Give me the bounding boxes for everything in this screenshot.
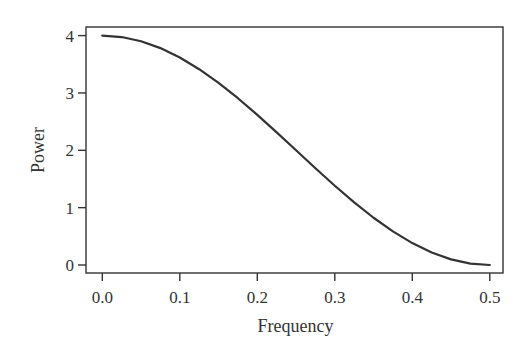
spectrum-line — [102, 36, 490, 265]
x-axis: 0.00.10.20.30.40.5 — [92, 273, 501, 307]
x-tick-label: 0.4 — [402, 288, 424, 307]
y-tick-label: 0 — [66, 256, 75, 275]
x-tick-label: 0.0 — [92, 288, 113, 307]
y-tick-label: 4 — [66, 27, 75, 46]
x-tick-label: 0.1 — [169, 288, 190, 307]
y-tick-label: 2 — [66, 141, 75, 160]
x-axis-label: Frequency — [258, 316, 334, 336]
y-axis-label: Power — [28, 127, 48, 173]
y-tick-label: 1 — [66, 199, 75, 218]
y-axis: 01234 — [66, 27, 87, 275]
spectrum-chart: 01234 0.00.10.20.30.40.5 Frequency Power — [0, 0, 531, 358]
y-tick-label: 3 — [66, 84, 75, 103]
plot-area — [102, 36, 490, 265]
x-tick-label: 0.5 — [479, 288, 500, 307]
x-tick-label: 0.3 — [324, 288, 345, 307]
x-tick-label: 0.2 — [247, 288, 268, 307]
